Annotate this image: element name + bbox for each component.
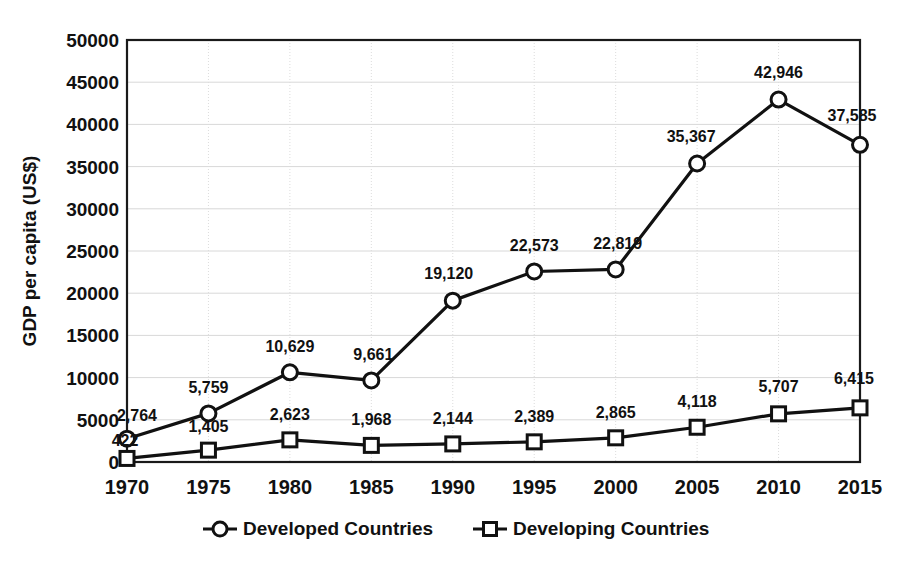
data-point-label: 2,764 — [117, 407, 157, 424]
square-marker-icon — [527, 435, 541, 449]
data-point-label: 2,389 — [514, 408, 554, 425]
data-point-label: 1,405 — [188, 418, 228, 435]
legend-label: Developing Countries — [513, 518, 709, 539]
x-axis-tick-label: 1970 — [105, 476, 150, 498]
data-point-label: 422 — [112, 432, 139, 449]
y-axis-tick-label: 15000 — [66, 325, 119, 346]
data-point-label: 22,573 — [510, 237, 559, 254]
y-axis-tick-label: 30000 — [66, 199, 119, 220]
y-axis-tick-label: 35000 — [66, 157, 119, 178]
data-point-label: 5,759 — [188, 379, 228, 396]
gdp-per-capita-line-chart: 0500010000150002000025000300003500040000… — [0, 0, 906, 561]
square-marker-icon — [201, 443, 215, 457]
data-point-label: 42,946 — [754, 64, 803, 81]
data-point-label: 22,819 — [593, 235, 642, 252]
data-point-label: 19,120 — [424, 265, 473, 282]
chart-page: 0500010000150002000025000300003500040000… — [0, 0, 906, 561]
data-point-label: 6,415 — [834, 370, 874, 387]
x-axis-tick-label: 2010 — [756, 476, 801, 498]
data-point-label: 1,968 — [351, 411, 391, 428]
x-axis-tick-label: 1985 — [349, 476, 394, 498]
y-axis-title: GDP per capita (US$) — [19, 156, 40, 347]
circle-marker-icon — [364, 373, 379, 388]
square-marker-icon — [283, 433, 297, 447]
data-point-label: 10,629 — [265, 338, 314, 355]
data-point-label: 4,118 — [678, 393, 717, 410]
square-marker-icon — [609, 431, 623, 445]
y-axis-tick-label: 20000 — [66, 283, 119, 304]
data-point-label: 9,661 — [353, 346, 393, 363]
circle-marker-icon — [527, 264, 542, 279]
y-axis-tick-label: 45000 — [66, 72, 119, 93]
circle-marker-icon — [282, 365, 297, 380]
x-axis-tick-label: 1980 — [268, 476, 313, 498]
circle-marker-icon — [771, 92, 786, 107]
x-axis-tick-label: 2015 — [838, 476, 883, 498]
y-axis-tick-label: 5000 — [77, 410, 119, 431]
circle-marker-icon — [213, 522, 227, 536]
x-axis-tick-label: 2000 — [593, 476, 638, 498]
data-point-label: 37,585 — [828, 107, 877, 124]
square-marker-icon — [364, 438, 378, 452]
square-marker-icon — [853, 401, 867, 415]
square-marker-icon — [690, 420, 704, 434]
circle-marker-icon — [445, 293, 460, 308]
data-point-label: 35,367 — [667, 128, 716, 145]
data-point-label: 5,707 — [759, 378, 799, 395]
y-axis-tick-label: 25000 — [66, 241, 119, 262]
x-axis-tick-label: 1995 — [512, 476, 557, 498]
y-axis-tick-label: 40000 — [66, 114, 119, 135]
circle-marker-icon — [690, 156, 705, 171]
square-marker-icon — [446, 437, 460, 451]
legend-label: Developed Countries — [243, 518, 433, 539]
y-axis-tick-label: 10000 — [66, 368, 119, 389]
square-marker-icon — [484, 523, 497, 536]
square-marker-icon — [772, 407, 786, 421]
data-point-label: 2,623 — [270, 406, 310, 423]
y-axis-tick-label: 0 — [108, 452, 119, 473]
circle-marker-icon — [853, 137, 868, 152]
data-point-label: 2,144 — [433, 410, 473, 427]
x-axis-tick-label: 1990 — [431, 476, 476, 498]
square-marker-icon — [120, 451, 134, 465]
x-axis-tick-label: 2005 — [675, 476, 720, 498]
y-axis-tick-label: 50000 — [66, 30, 119, 51]
x-axis-tick-label: 1975 — [186, 476, 231, 498]
circle-marker-icon — [608, 262, 623, 277]
data-point-label: 2,865 — [596, 404, 636, 421]
